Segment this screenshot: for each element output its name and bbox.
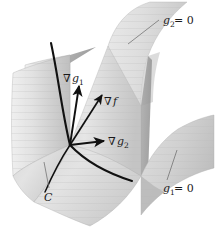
vector-origin-point — [69, 144, 72, 147]
label-g2-base: g — [163, 14, 170, 27]
label-curve-c-text: C — [44, 191, 53, 204]
label-grad-g2-nabla: ∇ — [108, 135, 116, 148]
label-grad-f: ∇ f — [104, 95, 119, 108]
figure-canvas: g 2 = 0 g 1 = 0 ∇ g 1 ∇ f ∇ g 2 C — [0, 0, 215, 230]
label-grad-g1-nabla: ∇ — [63, 72, 71, 85]
label-g1-base: g — [163, 182, 170, 195]
label-grad-f-nabla: ∇ — [104, 95, 112, 108]
label-grad-g1-subscript: 1 — [79, 78, 84, 87]
label-grad-g1: ∇ g 1 — [63, 72, 84, 87]
label-g1-equals-zero: = 0 — [174, 182, 194, 195]
label-grad-g2-subscript: 2 — [124, 141, 129, 150]
lagrange-multiplier-figure: g 2 = 0 g 1 = 0 ∇ g 1 ∇ f ∇ g 2 C — [0, 0, 215, 230]
label-g1-surface: g 1 = 0 — [163, 182, 194, 197]
label-g2-surface: g 2 = 0 — [163, 14, 194, 29]
label-grad-g1-base: g — [72, 72, 79, 85]
label-g2-equals-zero: = 0 — [174, 14, 194, 27]
g1-apex-wedge — [70, 47, 96, 63]
label-curve-c: C — [44, 191, 53, 204]
label-grad-g2-base: g — [117, 135, 124, 148]
